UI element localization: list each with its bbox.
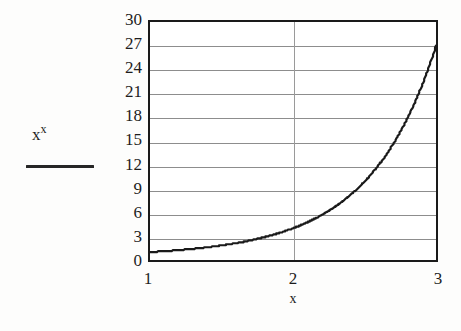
y-tick-label: 18 [106,107,142,124]
y-tick-label: 30 [106,11,142,28]
chart-figure: xx 30 27 24 21 18 15 12 9 6 3 0 [0,0,461,331]
y-tick-label: 0 [106,252,142,269]
plot-area [148,20,438,262]
y-tick-label: 9 [106,180,142,197]
x-tick-label: 2 [273,270,313,287]
legend-exponent-text: x [41,122,47,136]
chart-legend: xx [22,126,106,188]
y-tick-label: 6 [106,204,142,221]
y-tick-label: 24 [106,59,142,76]
legend-line-swatch [26,165,94,168]
legend-base-text: x [32,125,41,144]
x-tick-label: 3 [418,270,458,287]
y-tick-label: 3 [106,228,142,245]
y-tick-label: 27 [106,35,142,52]
legend-entry-label: xx [32,126,47,143]
x-tick-label: 1 [128,270,168,287]
series-curve-x-to-the-x [150,22,436,260]
y-tick-label: 21 [106,83,142,100]
curve-polyline [150,46,436,253]
y-tick-label: 15 [106,131,142,148]
plot-inner [150,22,436,260]
x-axis-title: x [273,292,313,306]
y-tick-label: 12 [106,156,142,173]
